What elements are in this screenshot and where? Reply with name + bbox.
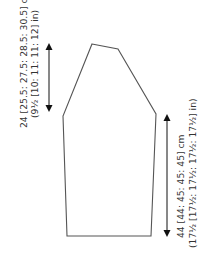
cap-height-in-label: (9½ [10: 11: 11: 12] in) xyxy=(29,10,40,118)
cap-height-arrow xyxy=(46,43,53,112)
cap-height-cm-label: 24 [25.5: 27.5: 28.5: 30.5] cm xyxy=(18,0,29,128)
sleeve-outline xyxy=(63,44,156,236)
sleeve-length-arrow xyxy=(164,114,171,237)
sleeve-length-cm-label: 44 [44: 45: 45: 45] cm xyxy=(175,134,186,238)
sleeve-length-in-label: (17½ [17½: 17½: 17½: 17½] in) xyxy=(187,98,198,248)
